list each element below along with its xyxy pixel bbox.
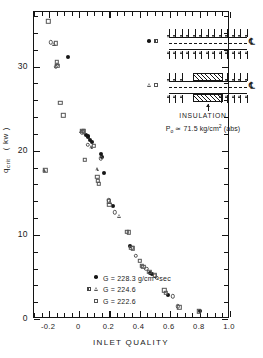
y-tick bbox=[34, 269, 38, 270]
legend-label: G = 222.6 bbox=[103, 298, 136, 305]
pressure-units: (abs) bbox=[222, 125, 241, 132]
legend-row: G = 222.6 bbox=[74, 295, 171, 307]
x-tick-label: 1.0 bbox=[223, 322, 234, 331]
y-tick-label: 20 bbox=[18, 145, 28, 155]
y-tick bbox=[34, 218, 38, 219]
data-point bbox=[46, 19, 50, 23]
y-tick bbox=[224, 184, 228, 185]
y-tick bbox=[34, 201, 38, 202]
x-tick bbox=[162, 12, 163, 16]
inset-uniform-heating-diagram: ℄ bbox=[169, 28, 247, 58]
y-tick bbox=[224, 302, 228, 303]
legend-row: G = 224.6 bbox=[74, 283, 171, 295]
y-tick bbox=[222, 151, 228, 152]
legend-row: G = 228.3 g/cm2-sec bbox=[74, 271, 171, 283]
x-tick bbox=[124, 12, 125, 16]
data-point bbox=[61, 113, 65, 117]
y-tick bbox=[34, 117, 38, 118]
x-tick bbox=[49, 311, 50, 317]
data-point bbox=[66, 55, 70, 59]
y-tick bbox=[34, 302, 38, 303]
y-tick bbox=[34, 184, 38, 185]
insulation-caption: INSULATION bbox=[179, 112, 226, 119]
y-tick-label: 0 bbox=[23, 313, 28, 323]
y-tick bbox=[34, 50, 38, 51]
x-tick bbox=[49, 12, 50, 18]
data-point bbox=[54, 64, 58, 68]
plot-frame: G = 228.3 g/cm2-secG = 224.6G = 222.6 ℄ … bbox=[33, 11, 229, 318]
inset-top-arrows-upper bbox=[169, 28, 247, 37]
x-tick bbox=[34, 12, 35, 16]
x-tick bbox=[200, 12, 201, 18]
data-point bbox=[107, 202, 111, 206]
x-tick bbox=[72, 313, 73, 317]
legend-markers bbox=[74, 299, 98, 303]
x-tick bbox=[215, 313, 216, 317]
x-tick bbox=[170, 311, 171, 317]
legend-markers bbox=[74, 275, 98, 279]
channel-centerline-2 bbox=[169, 87, 247, 88]
y-tick bbox=[224, 218, 228, 219]
y-tick-label: 30 bbox=[18, 61, 28, 71]
x-tick bbox=[57, 12, 58, 16]
y-tick bbox=[224, 269, 228, 270]
data-point bbox=[134, 254, 138, 258]
x-tick bbox=[42, 313, 43, 317]
y-tick bbox=[34, 285, 38, 286]
x-tick bbox=[140, 311, 141, 317]
x-tick-label: 0 bbox=[76, 322, 81, 331]
data-point bbox=[54, 41, 58, 45]
legend-label: G = 224.6 bbox=[103, 286, 136, 293]
centerline-symbol-top: ℄ bbox=[249, 38, 255, 47]
x-tick bbox=[42, 12, 43, 16]
x-tick bbox=[215, 12, 216, 16]
x-tick bbox=[222, 313, 223, 317]
legend-label: G = 228.3 g/cm2-sec bbox=[103, 273, 171, 282]
y-tick bbox=[224, 16, 228, 17]
x-tick bbox=[207, 12, 208, 16]
data-point bbox=[171, 294, 175, 298]
x-tick bbox=[117, 12, 118, 16]
x-tick bbox=[170, 12, 171, 18]
y-tick bbox=[224, 252, 228, 253]
x-tick-label: 0.8 bbox=[193, 322, 204, 331]
x-tick bbox=[57, 313, 58, 317]
inset-top-arrows-lower bbox=[169, 50, 247, 59]
x-tick bbox=[222, 12, 223, 16]
inset-schematic: ℄ ℄ INSULATION Po ≃ 71.5 kg/cm2 (abs) bbox=[147, 28, 259, 136]
pressure-value: ≃ 71.5 kg/cm bbox=[173, 125, 218, 132]
y-tick bbox=[224, 168, 228, 169]
x-tick bbox=[155, 12, 156, 16]
insulation-block-top bbox=[193, 73, 223, 81]
y-tick bbox=[34, 33, 38, 34]
x-tick bbox=[177, 313, 178, 317]
channel-centerline bbox=[169, 43, 247, 44]
legend: G = 228.3 g/cm2-secG = 224.6G = 222.6 bbox=[74, 271, 171, 307]
y-tick bbox=[34, 100, 38, 101]
data-point bbox=[82, 158, 86, 162]
x-tick bbox=[87, 313, 88, 317]
y-tick bbox=[34, 252, 38, 253]
inset-bottom-markers bbox=[147, 83, 158, 87]
x-tick bbox=[102, 313, 103, 317]
x-tick-label: -0.2 bbox=[41, 322, 55, 331]
x-tick bbox=[140, 12, 141, 18]
inset-top-markers bbox=[147, 39, 158, 43]
y-tick bbox=[34, 151, 40, 152]
data-point bbox=[197, 309, 201, 313]
x-tick bbox=[79, 311, 80, 317]
inset-marker-triangle-open bbox=[147, 83, 151, 87]
data-point bbox=[95, 167, 99, 171]
x-tick bbox=[155, 313, 156, 317]
y-tick bbox=[224, 285, 228, 286]
x-tick bbox=[230, 311, 231, 317]
data-point bbox=[131, 246, 135, 250]
pressure-annotation: Po ≃ 71.5 kg/cm2 (abs) bbox=[166, 123, 241, 134]
data-point bbox=[111, 204, 115, 208]
x-tick bbox=[192, 12, 193, 16]
y-tick bbox=[34, 319, 40, 320]
data-point bbox=[102, 171, 106, 175]
data-point bbox=[91, 144, 95, 148]
x-tick-label: 0.6 bbox=[163, 322, 174, 331]
x-tick bbox=[79, 12, 80, 18]
